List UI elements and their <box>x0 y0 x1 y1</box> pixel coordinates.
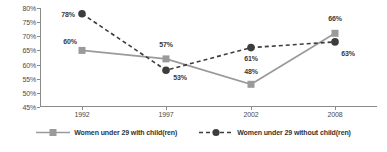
y-axis-tick-label: 50% <box>2 90 36 97</box>
data-point-marker-without-children <box>162 66 170 74</box>
data-point-marker-with-children <box>163 55 170 62</box>
y-axis-tick-label: 65% <box>2 47 36 54</box>
y-axis-tick-label: 60% <box>2 62 36 69</box>
y-axis-tick-label: 45% <box>2 104 36 111</box>
legend-label: Women under 29 with child(ren) <box>74 129 177 136</box>
y-axis-labels: 80% 75% 70% 65% 60% 55% 50% 45% <box>0 8 36 107</box>
series-plot <box>40 8 377 107</box>
x-axis-tick-label: 1997 <box>158 110 173 119</box>
legend-item-with-children: Women under 29 with child(ren) <box>36 128 177 137</box>
legend-swatch-dashed-circle-icon <box>199 128 233 137</box>
x-axis-labels: 1992 1997 2002 2008 <box>40 110 377 122</box>
value-label-with-children: 48% <box>244 68 257 75</box>
series-line-without-children <box>82 14 335 70</box>
data-point-marker-with-children <box>332 30 339 37</box>
series-line-with-children <box>82 33 335 84</box>
x-axis-tick-label: 2008 <box>327 110 342 119</box>
value-label-with-children: 57% <box>159 41 172 48</box>
y-axis-tick-label: 55% <box>2 76 36 83</box>
data-point-marker-without-children <box>331 38 339 46</box>
y-axis-tick-label: 75% <box>2 19 36 26</box>
y-axis-tick-label: 80% <box>2 5 36 12</box>
legend-item-without-children: Women under 29 without child(ren) <box>199 128 351 137</box>
y-axis-tick <box>37 107 40 108</box>
data-point-marker-without-children <box>247 44 255 52</box>
y-axis-tick-label: 70% <box>2 33 36 40</box>
x-axis-tick-label: 2002 <box>243 110 258 119</box>
data-point-marker-with-children <box>79 47 86 54</box>
data-point-marker-with-children <box>248 81 255 88</box>
value-label-with-children: 66% <box>328 15 341 22</box>
value-label-without-children: 61% <box>244 55 257 62</box>
data-point-marker-without-children <box>78 10 86 18</box>
x-axis-tick-label: 1992 <box>74 110 89 119</box>
legend-swatch-solid-square-icon <box>36 128 70 137</box>
plot-area: 60% 57% 48% 66% 78% 53% 61% 63% <box>40 8 377 107</box>
value-label-without-children: 53% <box>173 74 186 81</box>
value-label-without-children: 63% <box>341 50 354 57</box>
legend-label: Women under 29 without child(ren) <box>237 129 351 136</box>
line-chart: 80% 75% 70% 65% 60% 55% 50% 45% <box>0 0 387 152</box>
value-label-with-children: 60% <box>63 38 76 45</box>
value-label-without-children: 78% <box>61 10 74 17</box>
chart-legend: Women under 29 with child(ren) Women und… <box>0 128 387 148</box>
